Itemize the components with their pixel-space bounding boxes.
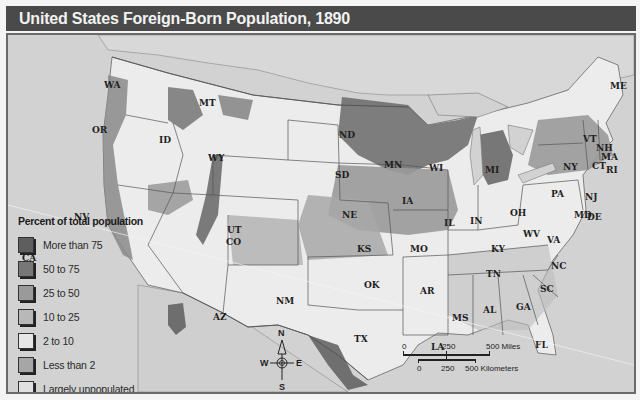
- state-label-ky: KY: [491, 244, 506, 254]
- legend-item-largely-unpopulated: Largely unpopulated: [18, 377, 168, 394]
- state-label-il: IL: [444, 218, 455, 228]
- compass-east: E: [296, 358, 302, 368]
- state-label-az: AZ: [212, 312, 227, 322]
- scale-miles-500: 500 Miles: [486, 342, 520, 351]
- state-label-ne: NE: [342, 210, 357, 220]
- legend-label: 50 to 75: [43, 263, 79, 275]
- state-label-ny: NY: [563, 162, 578, 172]
- state-label-sd: SD: [335, 170, 349, 180]
- scale-km-bar: [418, 359, 475, 361]
- compass-south: S: [279, 382, 285, 392]
- state-label-id: ID: [159, 135, 171, 145]
- state-label-ut: UT: [227, 225, 242, 235]
- map-panel: WAORCAIDNVMTWYUTCOAZNMNDSDNEKSOKTXMNIAMO…: [6, 33, 636, 394]
- state-label-tn: TN: [486, 269, 501, 279]
- map-title: United States Foreign-Born Population, 1…: [6, 6, 636, 31]
- swatch-2-to-10: [18, 333, 34, 349]
- legend-item-more-than-75: More than 75: [18, 233, 168, 257]
- legend-item-50-to-75: 50 to 75: [18, 257, 168, 281]
- state-label-ms: MS: [452, 313, 468, 323]
- legend-label: 10 to 25: [43, 311, 79, 323]
- state-label-mn: MN: [384, 160, 402, 170]
- state-label-in: IN: [470, 216, 482, 226]
- state-label-or: OR: [92, 125, 108, 135]
- state-label-vt: VT: [582, 134, 597, 144]
- state-label-sc: SC: [540, 284, 554, 294]
- state-label-tx: TX: [354, 334, 368, 344]
- state-label-wy: WY: [207, 153, 225, 163]
- state-label-pa: PA: [551, 189, 565, 199]
- state-label-nj: NJ: [585, 192, 598, 202]
- state-label-ia: IA: [402, 196, 414, 206]
- state-label-nd: ND: [339, 130, 355, 140]
- swatch-50-to-75: [18, 261, 34, 277]
- legend: Percent of total population More than 75…: [18, 215, 168, 394]
- state-label-al: AL: [482, 305, 497, 315]
- scale-miles-250: 250: [442, 342, 455, 351]
- compass-north: N: [278, 328, 285, 338]
- legend-label: Less than 2: [43, 359, 95, 371]
- scale-miles-0: 0: [402, 342, 406, 351]
- swatch-10-to-25: [18, 309, 34, 325]
- legend-item-2-to-10: 2 to 10: [18, 329, 168, 353]
- state-label-va: VA: [546, 235, 561, 245]
- scale-km-250: 250: [441, 364, 454, 373]
- state-label-ks: KS: [357, 244, 371, 254]
- legend-label: 25 to 50: [43, 287, 79, 299]
- legend-label: Largely unpopulated: [43, 383, 134, 394]
- compass-rose: N W E S: [260, 328, 304, 394]
- scale-km-0: 0: [417, 364, 421, 373]
- legend-item-10-to-25: 10 to 25: [18, 305, 168, 329]
- state-label-nm: NM: [276, 296, 294, 306]
- state-label-ok: OK: [364, 280, 381, 290]
- legend-item-25-to-50: 25 to 50: [18, 281, 168, 305]
- state-label-co: CO: [226, 237, 241, 247]
- state-label-oh: OH: [510, 208, 527, 218]
- legend-label: More than 75: [43, 239, 102, 251]
- scale-km-500: 500 Kilometers: [465, 364, 518, 373]
- state-label-mt: MT: [199, 98, 216, 108]
- state-label-ct: CT: [592, 161, 606, 171]
- state-label-de: DE: [587, 212, 602, 222]
- legend-label: 2 to 10: [43, 335, 74, 347]
- scale-bar: 0 250 500 Miles 0 250 500 Kilometers: [402, 342, 542, 392]
- compass-west: W: [260, 358, 269, 368]
- swatch-25-to-50: [18, 285, 34, 301]
- state-label-wv: WV: [522, 229, 541, 239]
- state-label-nc: NC: [551, 261, 566, 271]
- legend-title: Percent of total population: [18, 215, 168, 227]
- state-label-me: ME: [610, 81, 627, 91]
- state-label-ar: AR: [419, 286, 435, 296]
- swatch-less-than-2: [18, 357, 34, 373]
- legend-item-less-than-2: Less than 2: [18, 353, 168, 377]
- state-label-mi: MI: [485, 165, 499, 175]
- state-label-wi: WI: [428, 163, 443, 173]
- state-label-mo: MO: [410, 244, 428, 254]
- swatch-more-than-75: [18, 237, 34, 253]
- state-label-ri: RI: [606, 165, 618, 175]
- swatch-largely-unpopulated: [18, 381, 34, 394]
- state-label-ga: GA: [516, 302, 532, 312]
- state-label-wa: WA: [103, 80, 122, 90]
